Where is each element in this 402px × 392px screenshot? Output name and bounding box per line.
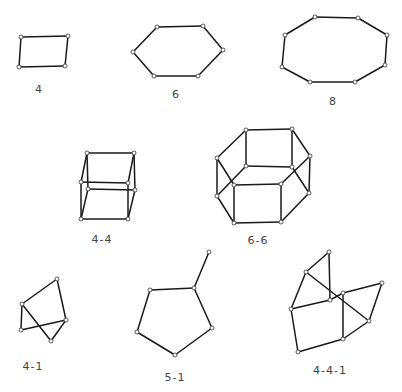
diagram-canvas — [0, 0, 402, 392]
graph-edge — [217, 166, 246, 196]
graph-edge — [309, 156, 310, 193]
graph-vertex — [244, 164, 248, 168]
figure-label: 4 — [35, 83, 43, 96]
graph-vertex — [356, 16, 360, 20]
graph-figure-5-1 — [135, 250, 214, 357]
graph-edge — [19, 66, 65, 67]
graph-vertex — [313, 15, 317, 19]
graph-vertex — [152, 74, 156, 78]
graph-edge — [282, 67, 310, 82]
graph-edge — [329, 252, 330, 300]
graph-vertex — [232, 221, 236, 225]
graph-vertex — [304, 270, 308, 274]
graph-vertex — [126, 217, 130, 221]
graph-edge — [234, 222, 281, 223]
graph-edge — [292, 167, 309, 193]
figure-label: 8 — [329, 95, 337, 108]
graph-vertex — [86, 187, 90, 191]
graph-vertex — [380, 281, 384, 285]
graph-vertex — [192, 286, 196, 290]
graph-edge — [175, 328, 212, 355]
graph-vertex — [341, 291, 345, 295]
graph-vertex — [327, 250, 331, 254]
graph-edge — [134, 153, 135, 190]
graph-figure-6 — [131, 24, 225, 78]
graph-vertex — [135, 330, 139, 334]
graph-edge — [292, 129, 310, 156]
graph-edge — [234, 184, 281, 185]
graph-edge — [22, 279, 57, 304]
graph-edge — [358, 18, 387, 35]
graph-edge — [21, 304, 22, 330]
graph-edge — [157, 26, 203, 27]
graph-vertex — [215, 194, 219, 198]
graph-vertex — [126, 181, 130, 185]
graph-edge — [343, 283, 382, 293]
graph-vertex — [196, 74, 200, 78]
graph-vertex — [66, 34, 70, 38]
graph-vertex — [63, 64, 67, 68]
graph-edge — [281, 156, 310, 184]
graph-edge — [194, 252, 209, 288]
graph-figure-6-6 — [215, 127, 312, 225]
graph-edge — [137, 290, 150, 332]
graph-edge — [246, 129, 292, 130]
graph-vertex — [383, 63, 387, 67]
graph-vertex — [280, 65, 284, 69]
graph-vertex — [279, 220, 283, 224]
graph-vertex — [341, 337, 345, 341]
graph-figure-4-1 — [19, 277, 68, 343]
graph-vertex — [307, 191, 311, 195]
graph-edge — [150, 288, 194, 290]
graph-edge — [217, 196, 234, 223]
graph-edge — [57, 279, 66, 320]
graph-edge — [21, 36, 68, 37]
graph-vertex — [155, 25, 159, 29]
graph-vertex — [131, 50, 135, 54]
graph-vertex — [49, 339, 53, 343]
graph-vertex — [85, 151, 89, 155]
graph-vertex — [133, 188, 137, 192]
graph-edge — [291, 300, 330, 309]
graph-edge — [285, 17, 315, 35]
graph-vertex — [19, 328, 23, 332]
figure-label: 6 — [172, 88, 180, 101]
graph-vertex — [353, 80, 357, 84]
graph-vertex — [289, 307, 293, 311]
graph-edge — [343, 321, 369, 339]
graph-vertex — [290, 127, 294, 131]
graph-vertex — [201, 24, 205, 28]
graph-vertex — [385, 33, 389, 37]
graph-edge — [246, 166, 292, 167]
graph-vertex — [244, 128, 248, 132]
graph-edge — [355, 65, 385, 82]
graph-vertex — [148, 288, 152, 292]
graph-vertex — [328, 298, 332, 302]
graph-edge — [385, 35, 387, 65]
graph-vertex — [64, 318, 68, 322]
graph-edge — [128, 190, 135, 219]
graph-vertex — [279, 182, 283, 186]
graph-vertex — [221, 48, 225, 52]
graph-edge — [306, 252, 329, 272]
graph-edge — [282, 35, 285, 67]
graph-vertex — [232, 183, 236, 187]
graph-edge — [128, 153, 134, 183]
graph-edge — [81, 189, 88, 219]
figure-label: 4-1 — [23, 360, 44, 373]
graph-vertex — [308, 154, 312, 158]
graph-edge — [22, 304, 51, 341]
graph-edge — [281, 193, 309, 222]
graph-vertex — [283, 33, 287, 37]
graph-figure-4 — [17, 34, 70, 69]
graph-edge — [65, 36, 68, 66]
figure-label: 5-1 — [165, 371, 186, 384]
graph-vertex — [17, 65, 21, 69]
graph-edge — [81, 153, 87, 182]
graph-edge — [194, 288, 212, 328]
figure-label: 4-4 — [92, 233, 113, 246]
graph-edge — [291, 309, 298, 352]
graph-edge — [133, 52, 154, 76]
graph-figure-4-4-1 — [289, 250, 384, 354]
graph-edge — [87, 153, 88, 189]
